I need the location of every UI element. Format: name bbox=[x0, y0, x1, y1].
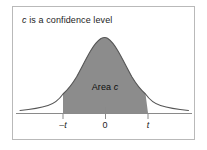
area-label-variable: c bbox=[114, 82, 119, 92]
confidence-level-figure: c is a confidence level Area c –t 0 t bbox=[0, 0, 207, 150]
area-label-text: Area bbox=[92, 82, 114, 92]
x-tick-label-zero: 0 bbox=[91, 120, 119, 130]
shaded-confidence-area bbox=[63, 37, 148, 113]
x-tick-label-negative-t: –t bbox=[49, 120, 77, 130]
x-tick-label-positive-t: t bbox=[134, 120, 162, 130]
shaded-area-label: Area c bbox=[0, 82, 207, 92]
